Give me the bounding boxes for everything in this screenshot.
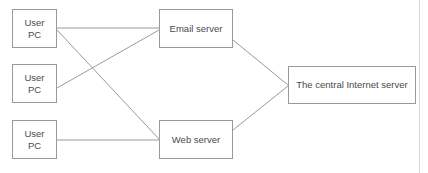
- node-user-pc-2-label: User PC: [20, 72, 48, 95]
- node-central-internet-server-label: The central Internet server: [292, 79, 411, 91]
- node-email-server-label: Email server: [166, 23, 227, 35]
- node-user-pc-3[interactable]: User PC: [12, 120, 57, 159]
- node-web-server-label: Web server: [168, 134, 224, 146]
- edge-pc2-email: [57, 30, 159, 88]
- node-email-server[interactable]: Email server: [159, 9, 233, 48]
- node-user-pc-1-label: User PC: [20, 17, 48, 40]
- node-web-server[interactable]: Web server: [159, 120, 233, 159]
- edge-pc1-web: [57, 30, 159, 139]
- node-user-pc-3-label: User PC: [20, 128, 48, 151]
- node-central-internet-server[interactable]: The central Internet server: [288, 66, 416, 104]
- node-user-pc-1[interactable]: User PC: [12, 9, 57, 48]
- edge-web-central: [233, 86, 288, 130]
- canvas-right-border: [419, 0, 420, 173]
- edge-email-central: [233, 40, 288, 85]
- node-user-pc-2[interactable]: User PC: [12, 64, 57, 103]
- network-diagram-canvas: User PC User PC User PC Email server Web…: [0, 0, 428, 173]
